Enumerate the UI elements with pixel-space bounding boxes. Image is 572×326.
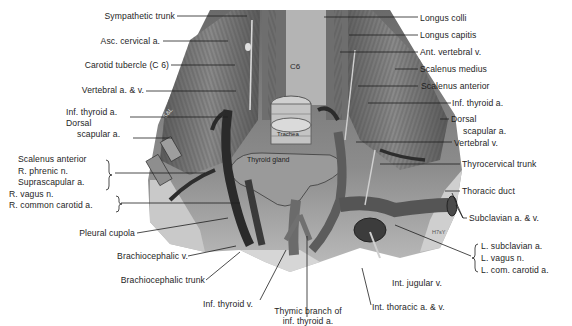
label-scalenus-anterior-left: Scalenus anterior xyxy=(18,154,87,164)
label-thyrocervical-trunk: Thyrocervical trunk xyxy=(462,159,537,169)
label-suprascapular-a: Suprascapular a. xyxy=(18,177,85,187)
label-subclavian-a-v: Subclavian a. & v. xyxy=(469,213,539,223)
label-brachiocephalic-trunk: Brachiocephalic trunk xyxy=(121,275,205,285)
label-scalenus-anterior-right: Scalenus anterior xyxy=(421,81,490,91)
label-carotid-tubercle: Carotid tubercle (C 6) xyxy=(85,60,169,70)
label-scalenus-medius: Scalenus medius xyxy=(420,64,487,74)
label-vertebral-v: Vertebral v. xyxy=(454,138,498,148)
label-dorsal-scapular-a-right-line1: Dorsal xyxy=(451,114,476,124)
label-longus-capitis: Longus capitis xyxy=(420,30,476,40)
label-dorsal-scapular-a-left-line2: scapular a. xyxy=(77,129,120,139)
label-thymic-branch-line1: Thymic branch of xyxy=(268,306,348,316)
label-int-thoracic-a-v: Int. thoracic a. & v. xyxy=(372,302,445,312)
label-l-vagus-n: L. vagus n. xyxy=(481,253,524,263)
label-r-common-carotid-a: R. common carotid a. xyxy=(9,200,93,210)
label-thoracic-duct: Thoracic duct xyxy=(462,186,515,196)
label-vertebral-a-v: Vertebral a. & v. xyxy=(82,85,144,95)
label-int-jugular-v: Int. jugular v. xyxy=(392,278,442,288)
label-r-phrenic-n: R. phrenic n. xyxy=(18,166,68,176)
label-inf-thyroid-v: Inf. thyroid v. xyxy=(203,299,253,309)
label-l-subclavian-a: L. subclavian a. xyxy=(481,241,542,251)
label-pleural-cupola: Pleural cupola xyxy=(79,228,135,238)
label-sympathetic-trunk: Sympathetic trunk xyxy=(105,11,175,21)
label-dorsal-scapular-a-left-line1: Dorsal xyxy=(66,118,91,128)
label-asc-cervical-a: Asc. cervical a. xyxy=(101,36,160,46)
label-thymic-branch-line2: inf. thyroid a. xyxy=(268,316,348,326)
label-inf-thyroid-a-left: Inf. thyroid a. xyxy=(66,107,117,117)
label-r-vagus-n: R. vagus n. xyxy=(9,189,54,199)
label-l-com-carotid-a: L. com. carotid a. xyxy=(481,265,549,275)
label-inf-thyroid-a-right: Inf. thyroid a. xyxy=(452,98,503,108)
label-ant-vertebral-v: Ant. vertebral v. xyxy=(420,47,481,57)
label-brachiocephalic-v: Brachiocephalic v. xyxy=(117,251,188,261)
label-longus-colli: Longus colli xyxy=(420,13,467,23)
label-dorsal-scapular-a-right-line2: scapular a. xyxy=(463,126,506,136)
